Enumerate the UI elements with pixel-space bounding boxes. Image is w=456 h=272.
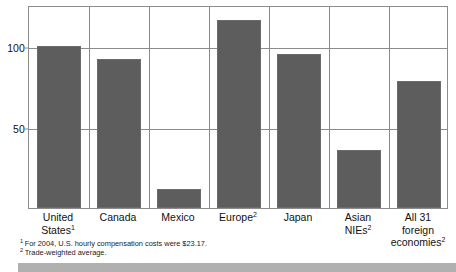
footnote-marker: 1: [20, 238, 23, 244]
figure-container: 50100 UnitedStates1CanadaMexicoEurope2Ja…: [0, 0, 456, 272]
footnote-marker: 2: [20, 247, 23, 253]
y-tick-mark-100: [25, 47, 29, 48]
caption-band: [18, 263, 456, 272]
column-separator-5: [329, 7, 330, 208]
bar-canada: [97, 59, 141, 208]
x-label-line1: Mexico: [148, 211, 208, 224]
y-tick-mark-50: [25, 128, 29, 129]
x-label-line1: Canada: [88, 211, 148, 224]
column-separator-4: [269, 7, 270, 208]
footnote-2: 2Trade-weighted average.: [20, 248, 440, 257]
x-label-line1: All 31 foreign: [388, 211, 448, 236]
x-label-line1: United: [28, 211, 88, 224]
bar-mexico: [157, 189, 201, 208]
column-separator-6: [389, 7, 390, 208]
footnote-list: 1For 2004, U.S. hourly compensation cost…: [20, 239, 440, 258]
y-tick-label-100: 100: [7, 42, 25, 54]
x-label-line1: Asian: [328, 211, 388, 224]
x-axis-category-labels: UnitedStates1CanadaMexicoEurope2JapanAsi…: [28, 211, 448, 241]
bar-europe: [217, 20, 261, 208]
x-label-line2: NIEs2: [328, 224, 388, 237]
x-label-mexico: Mexico: [148, 211, 208, 224]
column-separator-2: [149, 7, 150, 208]
footnote-1: 1For 2004, U.S. hourly compensation cost…: [20, 239, 440, 248]
bar-united-states: [37, 46, 81, 208]
bar-all-31-foreign-economies: [397, 81, 441, 208]
footnote-marker: 2: [441, 236, 445, 243]
bar-asian-nies: [337, 150, 381, 208]
footnote-marker: 2: [253, 211, 257, 218]
x-label-united-states: UnitedStates1: [28, 211, 88, 236]
footnote-marker: 2: [367, 223, 371, 230]
x-label-asian-nies: AsianNIEs2: [328, 211, 388, 236]
x-label-line1: Europe2: [208, 211, 268, 224]
x-label-canada: Canada: [88, 211, 148, 224]
bar-japan: [277, 54, 321, 208]
chart-plot-area: 50100: [28, 6, 448, 209]
footnote-marker: 1: [71, 223, 75, 230]
column-separator-3: [209, 7, 210, 208]
x-label-line2: States1: [28, 224, 88, 237]
x-label-japan: Japan: [268, 211, 328, 224]
y-tick-label-50: 50: [13, 123, 25, 135]
x-label-line1: Japan: [268, 211, 328, 224]
column-separator-1: [89, 7, 90, 208]
x-label-europe: Europe2: [208, 211, 268, 224]
